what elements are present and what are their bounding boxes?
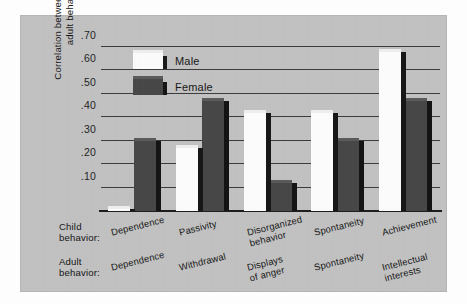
adult-behavior-label-2: Displaysof anger xyxy=(246,254,287,283)
y-axis-title: Correlation between child and adult beha… xyxy=(52,0,76,84)
adult-behavior-label-0: Dependence xyxy=(110,250,166,273)
gridline xyxy=(101,46,440,47)
y-axis-title-line1: Correlation between child and adult beha… xyxy=(52,0,76,84)
bar-male-3 xyxy=(311,113,333,211)
adult-behavior-row-title: Adultbehavior: xyxy=(59,256,100,278)
adult-behavior-label-4: Intellectualinterests xyxy=(381,252,431,284)
chart-panel: Correlation between child and adult beha… xyxy=(21,16,446,291)
y-tick-label: .20 xyxy=(81,146,96,158)
y-tick-label: .10 xyxy=(81,170,96,182)
child-behavior-label-1: Passivity xyxy=(178,219,218,238)
bar-female-0 xyxy=(134,141,156,211)
child-behavior-label-4: Achievement xyxy=(381,214,438,238)
y-tick-label: .30 xyxy=(81,123,96,135)
legend-label-male: Male xyxy=(175,55,200,67)
male-swatch xyxy=(133,53,163,69)
adult-behavior-label-1: Withdrawal xyxy=(178,251,227,273)
chart-legend: Male Female xyxy=(133,52,213,104)
adult-behavior-label-3: Spontaneity xyxy=(313,251,365,274)
bar-female-2 xyxy=(270,183,292,211)
chart-screenshot: Correlation between child and adult beha… xyxy=(0,0,467,304)
bar-female-3 xyxy=(337,141,359,211)
bar-female-4 xyxy=(405,101,427,211)
bar-male-4 xyxy=(379,52,401,211)
female-swatch xyxy=(133,79,163,95)
child-behavior-label-2: Disorganizedbehavior xyxy=(246,214,306,248)
y-tick-label: .70 xyxy=(81,29,96,41)
legend-item-female: Female xyxy=(133,78,213,95)
bar-male-1 xyxy=(176,148,198,211)
child-behavior-row-title: Childbehavior: xyxy=(59,221,100,243)
y-tick-label: .40 xyxy=(81,99,96,111)
bar-male-0 xyxy=(108,209,130,211)
bar-female-1 xyxy=(202,101,224,211)
y-tick-label: .50 xyxy=(81,76,96,88)
legend-item-male: Male xyxy=(133,52,213,69)
bar-male-2 xyxy=(244,113,266,211)
child-behavior-label-0: Dependence xyxy=(110,215,166,238)
child-behavior-label-3: Spontaneity xyxy=(313,216,365,239)
y-tick-label: .60 xyxy=(81,52,96,64)
legend-label-female: Female xyxy=(175,81,213,93)
